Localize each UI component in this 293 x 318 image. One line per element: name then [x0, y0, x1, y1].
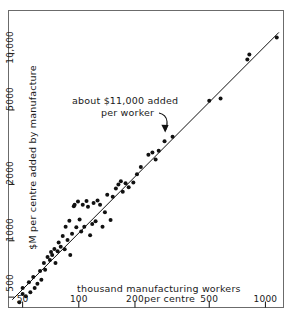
data-point	[38, 269, 42, 273]
data-point	[219, 97, 223, 101]
data-point	[109, 218, 113, 222]
x-tick-label: 1000	[245, 294, 285, 304]
data-point	[53, 261, 57, 265]
data-point	[92, 201, 96, 205]
x-tick-label: 500	[189, 294, 229, 304]
data-point	[157, 149, 161, 153]
chart-figure: 50010002000500010,000 501002005001000 $M…	[0, 0, 293, 318]
data-point	[96, 199, 100, 203]
data-point	[82, 225, 86, 229]
data-point	[27, 280, 31, 284]
data-point	[245, 58, 249, 62]
data-point	[74, 225, 78, 229]
data-points	[17, 35, 278, 304]
y-tick-label: 10,000	[5, 31, 15, 75]
fit-line	[12, 32, 279, 299]
x-axis-title-line2: per centre	[144, 293, 195, 304]
data-point	[48, 258, 52, 262]
data-point	[67, 219, 71, 223]
data-point	[131, 180, 135, 184]
data-point	[150, 151, 154, 155]
data-point	[35, 282, 39, 286]
data-point	[43, 268, 47, 272]
data-point	[33, 286, 37, 290]
x-tick-label: 50	[3, 294, 43, 304]
data-point	[105, 193, 109, 197]
data-point	[207, 99, 211, 103]
x-tick-label: 100	[59, 294, 99, 304]
data-point	[119, 179, 123, 183]
data-point	[86, 205, 90, 209]
data-point	[90, 222, 94, 226]
data-point	[98, 203, 102, 207]
data-point	[78, 217, 82, 221]
data-point	[68, 253, 72, 257]
data-point	[163, 139, 167, 143]
data-point	[124, 181, 128, 185]
data-point	[139, 165, 143, 169]
data-point	[42, 261, 46, 265]
data-point	[146, 153, 150, 157]
data-point	[101, 225, 105, 229]
data-point	[103, 210, 107, 214]
data-point	[52, 247, 56, 251]
data-point	[111, 195, 115, 199]
data-point	[70, 232, 74, 236]
data-point	[81, 203, 85, 207]
data-point	[247, 52, 251, 56]
data-point	[154, 157, 158, 161]
data-point	[88, 233, 92, 237]
callout-arrow	[159, 113, 169, 132]
slope-callout-line2: per worker	[101, 107, 154, 119]
data-point	[57, 240, 61, 244]
data-point	[171, 135, 175, 139]
y-tick-label: 5000	[5, 87, 15, 131]
data-point	[73, 203, 77, 207]
data-point	[50, 253, 54, 257]
data-point	[61, 234, 65, 238]
data-point	[79, 230, 83, 234]
data-point	[85, 199, 89, 203]
data-point	[21, 286, 25, 290]
data-point	[64, 225, 68, 229]
data-point	[56, 249, 60, 253]
data-point	[127, 185, 131, 189]
y-tick-label: 2000	[5, 161, 15, 205]
data-point	[66, 238, 70, 242]
data-point	[59, 245, 63, 249]
data-point	[135, 172, 139, 176]
y-tick-label: 1000	[5, 218, 15, 262]
data-point	[31, 275, 35, 279]
data-point	[114, 187, 118, 191]
fit-line-segment	[12, 32, 279, 299]
data-point	[116, 182, 120, 186]
data-point	[121, 190, 125, 194]
data-point	[63, 247, 67, 251]
data-point	[275, 35, 279, 39]
data-point	[76, 200, 80, 204]
data-point	[94, 219, 98, 223]
y-axis-title: $M per centre added by manufacture	[27, 58, 38, 258]
slope-callout-line1: about $11,000 added	[72, 95, 178, 107]
data-point	[39, 278, 43, 282]
scatter-plot-canvas	[0, 0, 293, 318]
plot-frame	[9, 11, 284, 308]
